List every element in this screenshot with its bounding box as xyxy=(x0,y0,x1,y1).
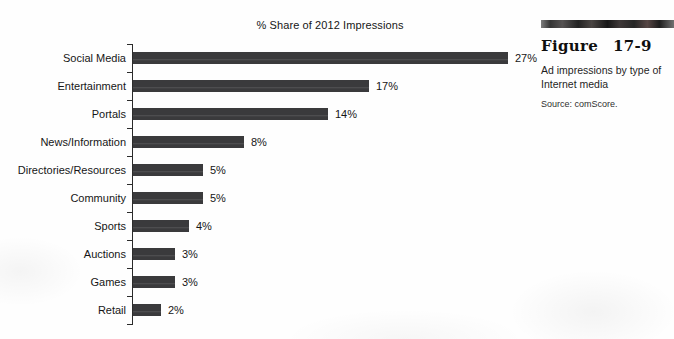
category-label: Community xyxy=(0,192,126,204)
axis-tick xyxy=(127,72,132,73)
axis-tick xyxy=(127,296,132,297)
category-label: Social Media xyxy=(0,52,126,64)
category-label: Retail xyxy=(0,304,126,316)
axis-tick xyxy=(127,240,132,241)
book-figure-page: % Share of 2012 Impressions Social Media… xyxy=(0,0,674,339)
bar xyxy=(133,52,508,64)
bar xyxy=(133,164,203,176)
figure-description: Ad impressions by type of Internet media xyxy=(541,64,669,92)
axis-tick xyxy=(127,44,132,45)
category-label: Games xyxy=(0,276,126,288)
chart-row: Games3% xyxy=(0,268,674,296)
bar xyxy=(133,220,189,232)
figure-number: 17-9 xyxy=(613,37,652,55)
axis-tick xyxy=(127,156,132,157)
value-label: 5% xyxy=(210,192,226,204)
category-label: Entertainment xyxy=(0,80,126,92)
chart-row: Community5% xyxy=(0,184,674,212)
chart-row: Retail2% xyxy=(0,296,674,324)
category-label: News/Information xyxy=(0,136,126,148)
bar xyxy=(133,80,369,92)
axis-tick xyxy=(127,128,132,129)
value-label: 3% xyxy=(182,276,198,288)
figure-label: Figure xyxy=(541,37,598,55)
category-label: Auctions xyxy=(0,248,126,260)
category-label: Directories/Resources xyxy=(0,164,126,176)
category-label: Portals xyxy=(0,108,126,120)
figure-source: Source: comScore. xyxy=(541,99,674,109)
bar xyxy=(133,136,244,148)
chart-row: Sports4% xyxy=(0,212,674,240)
chart-row: News/Information8% xyxy=(0,128,674,156)
value-label: 5% xyxy=(210,164,226,176)
value-label: 3% xyxy=(182,248,198,260)
chart-row: Directories/Resources5% xyxy=(0,156,674,184)
chart-row: Auctions3% xyxy=(0,240,674,268)
bar xyxy=(133,304,161,316)
axis-tick xyxy=(127,324,132,325)
axis-tick xyxy=(127,268,132,269)
value-label: 8% xyxy=(251,136,267,148)
axis-tick xyxy=(127,212,132,213)
decorative-band xyxy=(541,20,674,28)
value-label: 14% xyxy=(335,108,357,120)
figure-caption-panel: Figure 17-9 Ad impressions by type of In… xyxy=(541,20,674,109)
value-label: 27% xyxy=(515,52,537,64)
value-label: 4% xyxy=(196,220,212,232)
bar xyxy=(133,276,175,288)
category-label: Sports xyxy=(0,220,126,232)
figure-heading: Figure 17-9 xyxy=(541,37,674,55)
axis-tick xyxy=(127,100,132,101)
bar xyxy=(133,248,175,260)
axis-tick xyxy=(127,184,132,185)
bar xyxy=(133,108,328,120)
value-label: 2% xyxy=(168,304,184,316)
bar xyxy=(133,192,203,204)
value-label: 17% xyxy=(376,80,398,92)
